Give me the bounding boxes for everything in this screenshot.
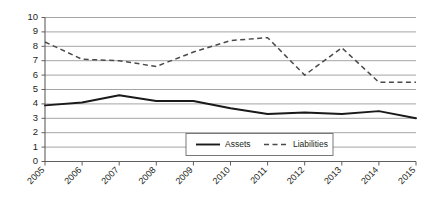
x-axis-tick-label: 2013	[322, 165, 343, 186]
x-axis-tick-labels: 2005200620072008200920102011201220132014…	[25, 165, 417, 186]
chart-legend[interactable]: AssetsLiabilities	[186, 134, 333, 156]
y-axis-tick-labels: 012345678910	[27, 11, 38, 166]
y-axis-tick-label: 6	[33, 69, 38, 80]
y-axis-tick-label: 3	[33, 112, 38, 123]
legend-label-assets: Assets	[225, 139, 251, 149]
x-axis-tick-marks	[45, 162, 416, 166]
y-axis-tick-label: 10	[27, 11, 38, 22]
x-axis-tick-label: 2011	[248, 165, 269, 186]
y-axis-tick-label: 2	[33, 126, 38, 137]
y-axis-tick-label: 1	[33, 141, 38, 152]
x-axis-tick-label: 2010	[211, 165, 232, 186]
legend-label-liabilities: Liabilities	[293, 139, 328, 149]
x-axis-tick-label: 2014	[359, 165, 380, 186]
y-axis-tick-label: 4	[33, 97, 38, 108]
x-axis-tick-label: 2012	[285, 165, 306, 186]
x-axis-tick-label: 2015	[396, 165, 417, 186]
y-axis-tick-label: 8	[33, 40, 38, 51]
y-axis-tick-label: 7	[33, 54, 38, 65]
chart-plot-area: 012345678910 200520062007200820092010201…	[0, 0, 435, 210]
series-line-liabilities	[45, 38, 416, 83]
series-line-assets	[45, 95, 416, 118]
y-axis-tick-label: 5	[33, 83, 38, 94]
x-axis-tick-label: 2005	[25, 165, 46, 186]
gridlines	[45, 18, 416, 148]
y-axis-tick-label: 9	[33, 25, 38, 36]
y-axis-tick-label: 0	[33, 155, 38, 166]
x-axis-tick-label: 2008	[136, 165, 157, 186]
x-axis-tick-label: 2007	[99, 165, 120, 186]
x-axis-tick-label: 2009	[174, 165, 195, 186]
line-chart: 012345678910 200520062007200820092010201…	[0, 0, 435, 210]
x-axis-tick-label: 2006	[62, 165, 83, 186]
